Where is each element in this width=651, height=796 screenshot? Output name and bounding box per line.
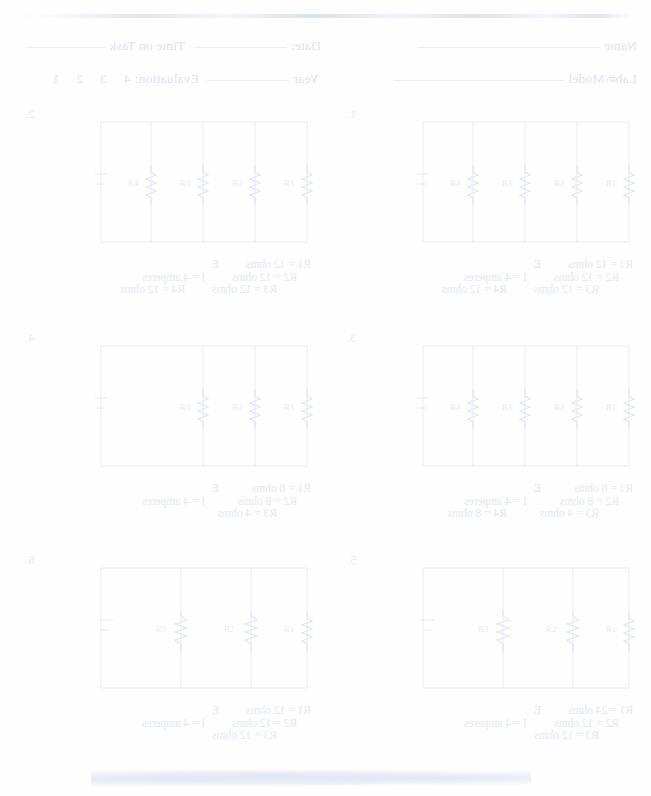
year-label: Year bbox=[293, 71, 319, 87]
year-field[interactable]: Year bbox=[207, 71, 319, 87]
value-line: R3 = 4 ohms bbox=[31, 507, 311, 520]
problem-number: 2. bbox=[25, 106, 35, 122]
lab-model-write-line[interactable] bbox=[394, 80, 564, 81]
time-on-task-field[interactable]: Time on Task bbox=[27, 38, 185, 54]
header-row-one: Name Date: Time on Task bbox=[13, 38, 637, 58]
resistor-tag: R1 bbox=[606, 402, 617, 412]
parallel-circuit-diagram: R1 R2 R3 R4 bbox=[409, 338, 635, 474]
resistor-tag: R2 bbox=[554, 178, 565, 188]
problem-item: 4. bbox=[21, 324, 321, 540]
value-line: R3 = 4 ohmsR4 = 8 ohms bbox=[353, 507, 633, 520]
header-row-two: Lab#/Model Year Evaluation: 4 3 2 1 bbox=[13, 71, 637, 91]
year-write-line[interactable] bbox=[207, 80, 289, 81]
problem-grid: 1. bbox=[0, 100, 651, 770]
problem-item: 1. bbox=[343, 100, 643, 316]
mirrored-sheet-content: Name Date: Time on Task Lab#/Model Year bbox=[0, 0, 651, 796]
time-on-task-label: Time on Task bbox=[109, 38, 185, 54]
problem-values: R1 = 12 ohmsE R2 = 12 ohmsI = 4 amperes … bbox=[353, 258, 633, 296]
evaluation-score-options[interactable]: 4 3 2 1 bbox=[46, 71, 131, 87]
resistor-tag: R3 bbox=[180, 402, 191, 412]
problem-values: R1 = 12 ohmsE R2 = 12 ohmsI = 4 amperes … bbox=[31, 704, 311, 742]
value-line: R2 = 12 ohmsI = 4 amperes bbox=[31, 717, 311, 730]
date-write-line[interactable] bbox=[195, 47, 287, 48]
value-line: R3 = 12 ohmsR4 = 12 ohms bbox=[353, 283, 633, 296]
time-on-task-write-line[interactable] bbox=[27, 47, 105, 48]
resistor-tag: R4 bbox=[128, 178, 139, 188]
resistor-tag: R3 bbox=[478, 624, 489, 634]
parallel-circuit-diagram: R1 R2 R3 bbox=[409, 560, 635, 696]
problem-number: 5. bbox=[347, 552, 357, 568]
scanned-worksheet-page: Name Date: Time on Task Lab#/Model Year bbox=[0, 0, 651, 796]
problem-number: 4. bbox=[25, 330, 35, 346]
scan-artifact-bottom-edge bbox=[91, 770, 531, 786]
resistor-tag: R3 bbox=[502, 178, 513, 188]
evaluation-label: Evaluation: bbox=[135, 71, 199, 87]
value-line: R2 = 8 ohmsI = 4 amperes bbox=[31, 495, 311, 508]
scan-artifact-top-edge bbox=[17, 14, 633, 18]
value-line: R1 = 8 ohmsE bbox=[353, 482, 633, 495]
value-line: R1 = 12 ohmsE bbox=[31, 704, 311, 717]
resistor-tag: R2 bbox=[232, 178, 243, 188]
resistor-tag: R1 bbox=[284, 624, 295, 634]
value-line: R3 = 12 ohmsR4 = 12 ohms bbox=[31, 283, 311, 296]
parallel-circuit-diagram: R1 R2 R3 R4 bbox=[87, 114, 313, 250]
resistor-tag: R3 bbox=[180, 178, 191, 188]
resistor-tag: R3 bbox=[502, 402, 513, 412]
problem-values: R1 = 8 ohmsE R2 = 8 ohmsI = 4 amperes R3… bbox=[31, 482, 311, 520]
problem-item: 5. bbox=[343, 546, 643, 762]
problem-item: 3. bbox=[343, 324, 643, 540]
name-write-line[interactable] bbox=[418, 47, 600, 48]
value-line: R2 = 12 ohmsI = 4 amperes bbox=[353, 717, 633, 730]
value-line: R1 = 8 ohmsE bbox=[31, 482, 311, 495]
resistor-tag: R2 bbox=[546, 624, 557, 634]
value-line: R1 = 12 ohmsE bbox=[353, 258, 633, 271]
value-line: R2 = 12 ohmsI = 4 amperes bbox=[31, 271, 311, 284]
lab-model-label: Lab#/Model bbox=[568, 71, 637, 87]
value-line: R1 = 24 ohmsE bbox=[353, 704, 633, 717]
resistor-tag: R1 bbox=[284, 402, 295, 412]
value-line: R3 = 12 ohms bbox=[31, 729, 311, 742]
problem-number: 3. bbox=[347, 330, 357, 346]
value-line: R3 = 12 ohms bbox=[353, 729, 633, 742]
resistor-tag: R2 bbox=[232, 402, 243, 412]
value-line: R1 = 12 ohmsE bbox=[31, 258, 311, 271]
name-field[interactable]: Name bbox=[418, 38, 637, 54]
resistor-tag: R2 bbox=[554, 402, 565, 412]
problem-values: R1 = 24 ohmsE R2 = 12 ohmsI = 4 amperes … bbox=[353, 704, 633, 742]
resistor-tag: R4 bbox=[450, 178, 461, 188]
resistor-tag: R1 bbox=[284, 178, 295, 188]
value-line: R2 = 12 ohmsI = 4 amperes bbox=[353, 271, 633, 284]
resistor-tag: R3 bbox=[156, 624, 167, 634]
resistor-tag: R2 bbox=[224, 624, 235, 634]
parallel-circuit-diagram: R1 R2 R3 bbox=[87, 338, 313, 474]
problem-item: 6. bbox=[21, 546, 321, 762]
problem-values: R1 = 12 ohmsE R2 = 12 ohmsI = 4 amperes … bbox=[31, 258, 311, 296]
value-line: R2 = 8 ohmsI = 4 amperes bbox=[353, 495, 633, 508]
parallel-circuit-diagram: R1 R2 R3 bbox=[87, 560, 313, 696]
problem-values: R1 = 8 ohmsE R2 = 8 ohmsI = 4 amperes R3… bbox=[353, 482, 633, 520]
lab-model-field[interactable]: Lab#/Model bbox=[394, 71, 637, 87]
date-label: Date: bbox=[291, 38, 321, 54]
problem-item: 2. bbox=[21, 100, 321, 316]
name-label: Name bbox=[604, 38, 637, 54]
resistor-tag: R4 bbox=[450, 402, 461, 412]
problem-number: 1. bbox=[347, 106, 357, 122]
evaluation-field[interactable]: Evaluation: 4 3 2 1 bbox=[46, 71, 199, 87]
problem-number: 6. bbox=[25, 552, 35, 568]
date-field[interactable]: Date: bbox=[195, 38, 321, 54]
parallel-circuit-diagram: R1 R2 R3 R4 bbox=[409, 114, 635, 250]
resistor-tag: R1 bbox=[606, 178, 617, 188]
resistor-tag: R1 bbox=[606, 624, 617, 634]
